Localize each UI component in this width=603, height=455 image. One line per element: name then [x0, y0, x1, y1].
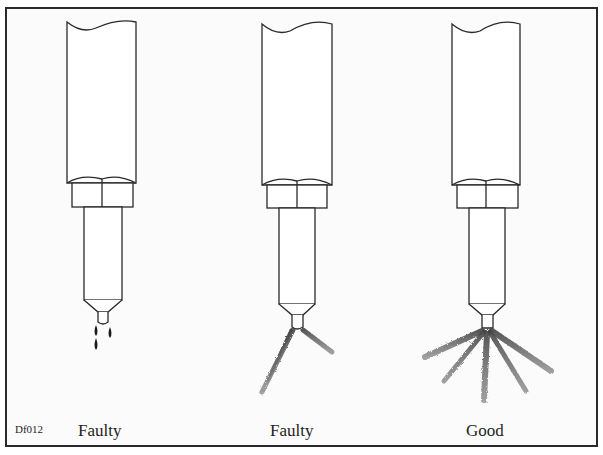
nozzle-tip — [98, 312, 108, 324]
nozzle-cone — [469, 304, 505, 315]
injector-good — [425, 22, 551, 400]
label-injector-2: Faulty — [270, 421, 313, 441]
nozzle-cone — [279, 304, 315, 315]
nozzle-tip — [292, 315, 303, 329]
spray-streams — [425, 331, 551, 400]
nozzle-cone — [84, 300, 122, 312]
injector-faulty-uneven — [262, 22, 332, 392]
figure-code: Df012 — [15, 423, 43, 435]
label-injector-3: Good — [466, 421, 504, 441]
nozzle-stem — [469, 208, 505, 304]
nozzle-tip — [482, 315, 493, 328]
nozzle-nut — [457, 185, 518, 208]
injector-faulty-dripping — [67, 21, 136, 350]
injector-body — [452, 22, 520, 185]
spray-streams — [262, 330, 332, 392]
fuel-drops — [95, 325, 112, 350]
injector-body — [67, 21, 136, 183]
nozzle-stem — [279, 208, 315, 304]
injector-diagram — [0, 0, 603, 455]
injector-body — [262, 22, 332, 185]
label-injector-1: Faulty — [78, 421, 121, 441]
nozzle-stem — [84, 207, 122, 300]
